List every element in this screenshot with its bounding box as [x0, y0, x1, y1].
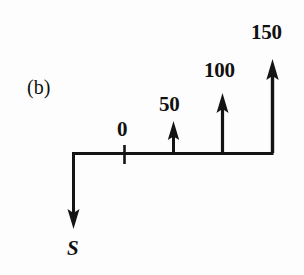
peak-label-150: 150: [251, 22, 282, 43]
peak-label-50: 50: [159, 94, 180, 115]
s-axis-label: S: [67, 238, 78, 259]
figure-panel-b: (b) 0 50 100 150 S: [0, 0, 304, 275]
panel-label: (b): [27, 77, 50, 97]
tick-label-zero: 0: [117, 119, 127, 140]
peak-label-100: 100: [204, 60, 235, 81]
